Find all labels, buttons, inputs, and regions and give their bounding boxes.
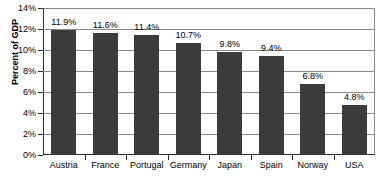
y-axis-tick-label: 14% — [18, 3, 36, 13]
y-axis-tick — [38, 8, 43, 9]
y-axis-tick-label: 8% — [23, 66, 36, 76]
bar-value-label: 9.8% — [219, 39, 240, 49]
x-axis-tick — [251, 155, 252, 160]
y-axis-tick-label: 6% — [23, 87, 36, 97]
bar-chart: Percent of GDP 0%2%4%6%8%10%12%14% 11.9%… — [0, 0, 381, 177]
y-axis-tick — [38, 92, 43, 93]
y-axis-tick — [38, 134, 43, 135]
y-axis-tick — [38, 113, 43, 114]
x-axis-category-label: France — [91, 160, 119, 170]
bar — [134, 35, 159, 155]
x-axis-category-label: USA — [345, 160, 364, 170]
x-axis-tick — [209, 155, 210, 160]
y-axis-tick — [38, 71, 43, 72]
bar — [300, 84, 325, 155]
bar — [217, 52, 242, 155]
bar-value-label: 10.7% — [175, 30, 201, 40]
x-axis-tick — [168, 155, 169, 160]
bar — [51, 30, 76, 155]
y-axis-tick-label: 12% — [18, 24, 36, 34]
x-axis-category-label: Norway — [297, 160, 328, 170]
x-axis-category-label: Japan — [217, 160, 242, 170]
x-axis-category-label: Germany — [170, 160, 207, 170]
bar-value-label: 4.8% — [344, 92, 365, 102]
y-axis-tick-label: 2% — [23, 129, 36, 139]
bar — [342, 105, 367, 155]
bar-value-label: 11.4% — [134, 22, 159, 32]
y-axis-tick — [38, 155, 43, 156]
y-axis-tick-label: 0% — [23, 150, 36, 160]
x-axis-category-label: Portugal — [130, 160, 164, 170]
x-axis-tick — [334, 155, 335, 160]
bar — [259, 56, 284, 155]
x-axis-tick — [126, 155, 127, 160]
bar-value-label: 6.8% — [302, 71, 323, 81]
y-axis-tick-label: 4% — [23, 108, 36, 118]
x-axis-tick — [292, 155, 293, 160]
bar-value-label: 9.4% — [261, 43, 282, 53]
bar-value-label: 11.6% — [93, 20, 118, 30]
y-axis-tick — [38, 50, 43, 51]
x-axis-category-label: Spain — [260, 160, 283, 170]
bar — [93, 33, 118, 155]
y-axis-tick-label: 10% — [18, 45, 36, 55]
x-axis-tick — [85, 155, 86, 160]
y-axis-tick — [38, 29, 43, 30]
x-axis-category-label: Austria — [50, 160, 78, 170]
bar-value-label: 11.9% — [51, 17, 76, 27]
bar — [176, 43, 201, 155]
